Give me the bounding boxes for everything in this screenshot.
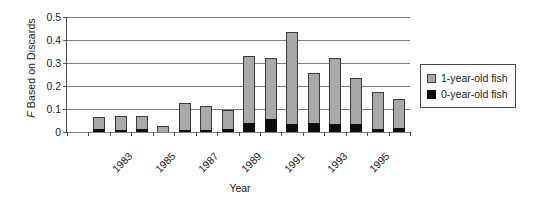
legend-swatch-black-icon [427, 90, 436, 99]
bar-slot [179, 17, 191, 132]
bar-segment-1-year-old [350, 78, 362, 124]
bar-stack [243, 56, 255, 132]
bar-segment-0-year-old [136, 129, 148, 132]
bar-segment-0-year-old [200, 130, 212, 132]
legend-item-1-year-old: 1-year-old fish [427, 70, 508, 86]
bar-stack [350, 78, 362, 132]
bar-segment-1-year-old [136, 116, 148, 129]
x-tick-label: 1985 [153, 150, 178, 175]
bar-segment-0-year-old [372, 129, 384, 132]
y-tick-label: 0 [55, 126, 61, 138]
bar-segment-1-year-old [93, 117, 105, 129]
bar-stack [286, 32, 298, 132]
bar-stack [157, 126, 169, 132]
y-tick-mark [63, 17, 67, 18]
x-tick-label: 1993 [324, 150, 349, 175]
bar-segment-0-year-old [115, 130, 127, 132]
x-tick-mark [260, 132, 261, 136]
legend-swatch-gray-icon [427, 74, 436, 83]
bar-segment-1-year-old [179, 103, 191, 130]
bar-stack [200, 106, 212, 132]
x-tick-mark [303, 132, 304, 136]
x-tick-mark [88, 132, 89, 136]
bar-slot [393, 17, 405, 132]
bar-segment-1-year-old [265, 58, 277, 119]
y-tick-mark [63, 86, 67, 87]
x-tick-mark [67, 132, 68, 136]
bar-segment-0-year-old [243, 123, 255, 132]
x-tick-mark [281, 132, 282, 136]
y-axis-title-italic-prefix: F [25, 111, 37, 118]
y-tick-label: 0.2 [46, 80, 61, 92]
bar-segment-1-year-old [372, 92, 384, 129]
bar-slot [243, 17, 255, 132]
chart-legend: 1-year-old fish 0-year-old fish [420, 64, 516, 108]
bar-stack [115, 116, 127, 132]
bar-segment-1-year-old [308, 73, 320, 122]
bar-segment-0-year-old [350, 124, 362, 133]
chart-figure: F Based on Discards 00.10.20.30.40.5 198… [0, 0, 558, 206]
x-tick-label: 1991 [281, 150, 306, 175]
bar-segment-1-year-old [115, 116, 127, 130]
y-tick-mark [63, 63, 67, 64]
x-tick-mark [110, 132, 111, 136]
x-tick-label: 1989 [238, 150, 263, 175]
y-tick-label: 0.4 [46, 34, 61, 46]
x-tick-mark [131, 132, 132, 136]
bar-slot [157, 17, 169, 132]
bar-segment-0-year-old [308, 123, 320, 132]
y-tick-mark [63, 40, 67, 41]
bar-stack [93, 117, 105, 132]
y-tick-label: 0.3 [46, 57, 61, 69]
plot-area: 00.10.20.30.40.5 [67, 17, 410, 132]
y-axis-title: F Based on Discards [25, 0, 37, 143]
bar-slot [200, 17, 212, 132]
x-axis-title: Year [140, 182, 340, 194]
x-tick-mark [239, 132, 240, 136]
bar-slot [329, 17, 341, 132]
bar-slot [115, 17, 127, 132]
bar-slot [350, 17, 362, 132]
bar-stack [372, 92, 384, 132]
bar-slot [286, 17, 298, 132]
bar-slot [93, 17, 105, 132]
x-tick-label: 1987 [196, 150, 221, 175]
bar-segment-0-year-old [93, 129, 105, 132]
bar-stack [308, 73, 320, 132]
x-tick-label: 1983 [110, 150, 135, 175]
bar-stack [136, 116, 148, 132]
y-tick-label: 0.5 [46, 11, 61, 23]
y-axis-line [66, 17, 67, 133]
x-tick-mark [389, 132, 390, 136]
bar-stack [179, 103, 191, 132]
x-tick-label: 1995 [367, 150, 392, 175]
bar-segment-0-year-old [329, 124, 341, 132]
bar-segment-1-year-old [157, 126, 169, 132]
bar-segment-1-year-old [286, 32, 298, 124]
bar-segment-0-year-old [286, 124, 298, 132]
bar-segment-0-year-old [265, 119, 277, 132]
x-tick-mark [346, 132, 347, 136]
legend-label-0-year-old: 0-year-old fish [441, 88, 508, 100]
bar-segment-1-year-old [393, 99, 405, 128]
x-tick-mark [410, 132, 411, 136]
legend-label-1-year-old: 1-year-old fish [441, 72, 508, 84]
bar-slot [265, 17, 277, 132]
x-tick-mark [324, 132, 325, 136]
bar-segment-1-year-old [329, 58, 341, 124]
bar-stack [222, 110, 234, 132]
bar-segment-0-year-old [222, 129, 234, 132]
bar-slot [308, 17, 320, 132]
x-tick-mark [174, 132, 175, 136]
bar-segment-1-year-old [243, 56, 255, 123]
bar-stack [265, 58, 277, 133]
bar-slot [136, 17, 148, 132]
bar-segment-1-year-old [222, 110, 234, 129]
y-tick-label: 0.1 [46, 103, 61, 115]
bar-segment-1-year-old [200, 106, 212, 130]
bar-slot [222, 17, 234, 132]
y-axis-title-rest: Based on Discards [25, 18, 37, 111]
x-tick-mark [367, 132, 368, 136]
x-tick-mark [217, 132, 218, 136]
bar-stack [393, 99, 405, 132]
